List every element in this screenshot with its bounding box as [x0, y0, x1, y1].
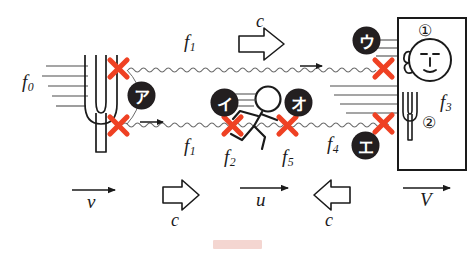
label-f5: f5: [282, 147, 294, 169]
label-f3: f3: [440, 92, 452, 114]
c-arrow-bottom-left: [163, 180, 199, 210]
circled-number-one: ①: [418, 23, 432, 39]
label-v: v: [87, 192, 95, 211]
label-c-bottom-right: c: [325, 211, 333, 229]
circled-number-two: ②: [422, 115, 436, 131]
label-c-top: c: [256, 12, 264, 30]
marker-e[interactable]: エ: [352, 132, 379, 159]
c-arrow-bottom-right: [314, 180, 350, 210]
label-f2: f2: [224, 147, 236, 169]
cross-mark: [279, 117, 296, 134]
label-V: V: [420, 190, 432, 209]
tuning-fork-left: [85, 55, 117, 152]
marker-u[interactable]: ウ: [353, 27, 380, 54]
label-f1-bottom: f1: [184, 136, 196, 158]
cross-mark: [375, 60, 392, 77]
diagram-canvas: [0, 0, 469, 255]
c-arrow-top: [239, 28, 284, 60]
cross-mark: [110, 117, 127, 134]
cross-mark: [375, 115, 392, 132]
label-f1-top: f1: [184, 32, 196, 54]
label-u: u: [256, 190, 266, 209]
marker-a[interactable]: ア: [128, 82, 155, 109]
upper-wave-train: [128, 68, 376, 72]
label-f0: f0: [22, 72, 34, 94]
doppler-effect-diagram: f0 f1 f1 f2 f5 f4 f3 v u V c c c ア イ ウ エ…: [0, 0, 469, 255]
marker-i[interactable]: イ: [211, 89, 238, 116]
pink-watermark-bar: [213, 240, 262, 249]
label-f4: f4: [327, 134, 339, 156]
marker-o[interactable]: オ: [285, 89, 312, 116]
sound-rays-into-fork: [42, 66, 88, 106]
label-c-bottom-left: c: [171, 211, 179, 229]
cross-mark: [110, 60, 127, 77]
